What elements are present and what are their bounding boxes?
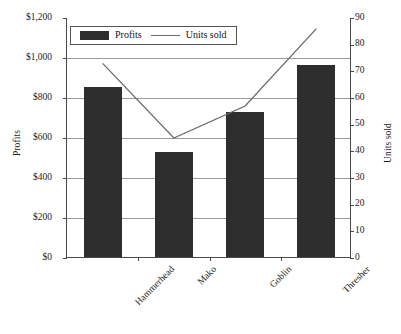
chart-legend: Profits Units sold [70,26,237,45]
chart-container: Profits Units sold $0$200$400$600$800$1,… [0,0,401,334]
legend-label-profits: Profits [115,30,142,40]
y-tick-label-right: 80 [355,39,381,49]
x-label-thresher: Thresher [341,264,372,295]
legend-label-units-sold: Units sold [186,30,227,40]
y-tick-label-right: 0 [355,253,381,263]
y-tick-label-left: $600 [8,133,52,143]
plot-area [66,18,351,258]
x-axis-category-labels: HammerheadMakoGoblinThresher [66,258,351,334]
legend-item-units-sold: Units sold [151,30,227,40]
x-label-goblin: Goblin [268,264,294,290]
y-tick-label-right: 60 [355,93,381,103]
y-tick-label-right: 30 [355,173,381,183]
y-axis-right-title: Units sold [383,113,393,173]
y-tick-label-left: $200 [8,213,52,223]
y-tick-label-left: $800 [8,93,52,103]
line-series-units-sold [67,18,352,258]
legend-line-swatch-icon [151,35,180,36]
legend-item-profits: Profits [80,30,142,40]
y-tick-label-right: 70 [355,66,381,76]
y-tick-label-right: 90 [355,13,381,23]
x-label-mako: Mako [195,264,218,287]
x-label-hammerhead: Hammerhead [133,264,176,307]
y-tick-label-right: 10 [355,226,381,236]
y-tick-label-left: $0 [8,253,52,263]
y-tick-label-right: 20 [355,199,381,209]
y-tick-label-left: $1,200 [8,13,52,23]
y-tick-label-left: $1,000 [8,53,52,63]
y-tick-label-left: $400 [8,173,52,183]
y-tick-label-right: 40 [355,146,381,156]
y-axis-right-ticks: 0102030405060708090 [355,18,381,258]
y-axis-left-ticks: $0$200$400$600$800$1,000$1,200 [8,18,52,258]
legend-bar-swatch-icon [80,31,109,40]
y-tick-label-right: 50 [355,119,381,129]
